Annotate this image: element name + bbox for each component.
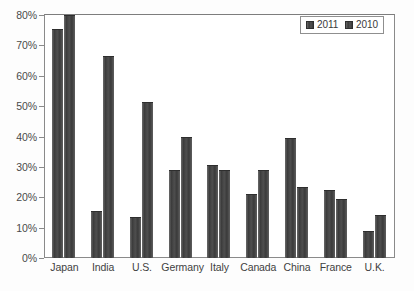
bar-group bbox=[316, 15, 355, 258]
bar-group bbox=[45, 15, 84, 258]
bar-group bbox=[161, 15, 200, 258]
y-axis-tick-label: 60% bbox=[16, 70, 37, 82]
y-axis-tick-mark bbox=[39, 197, 44, 198]
x-axis-tick-label: Canada bbox=[239, 261, 278, 273]
bar bbox=[246, 194, 257, 258]
legend-label: 2011 bbox=[317, 19, 338, 30]
bar bbox=[103, 56, 114, 258]
bar bbox=[181, 137, 192, 259]
y-axis-tick-label: 20% bbox=[16, 191, 37, 203]
y-axis-tick-label: 0% bbox=[22, 252, 37, 264]
x-axis-tick-label: France bbox=[316, 261, 355, 273]
bar bbox=[258, 170, 269, 258]
bar-group bbox=[355, 15, 394, 258]
y-axis-tick-mark bbox=[39, 167, 44, 168]
x-axis-tick-label: Germany bbox=[161, 261, 200, 273]
y-axis-tick-label: 50% bbox=[16, 100, 37, 112]
bar bbox=[297, 187, 308, 258]
bar-group bbox=[84, 15, 123, 258]
legend: 20112010 bbox=[300, 16, 384, 34]
y-axis-tick-label: 70% bbox=[16, 39, 37, 51]
legend-entry: 2010 bbox=[345, 19, 378, 30]
x-axis-tick-label: U.K. bbox=[355, 261, 394, 273]
legend-label: 2010 bbox=[356, 19, 378, 30]
bar bbox=[375, 215, 386, 258]
bar-group bbox=[278, 15, 317, 258]
bar bbox=[64, 15, 75, 258]
y-axis: 80%70%60%50%40%30%20%10%0% bbox=[0, 0, 44, 258]
x-axis-tick-label: China bbox=[278, 261, 317, 273]
bar bbox=[91, 211, 102, 258]
y-axis-tick-label: 80% bbox=[16, 9, 37, 21]
bar bbox=[324, 190, 335, 258]
x-axis-tick-label: U.S. bbox=[123, 261, 162, 273]
y-axis-tick-mark bbox=[39, 45, 44, 46]
bar-group bbox=[200, 15, 239, 258]
x-axis: JapanIndiaU.S.GermanyItalyCanadaChinaFra… bbox=[45, 261, 394, 277]
bar-chart: 80%70%60%50%40%30%20%10%0% JapanIndiaU.S… bbox=[0, 0, 414, 291]
y-axis-tick-mark bbox=[39, 106, 44, 107]
y-axis-tick-mark bbox=[39, 76, 44, 77]
x-axis-tick-label: Italy bbox=[200, 261, 239, 273]
legend-entry: 2011 bbox=[306, 19, 338, 30]
y-axis-tick-mark bbox=[39, 228, 44, 229]
bar-group bbox=[123, 15, 162, 258]
bar bbox=[142, 102, 153, 258]
bar-group bbox=[239, 15, 278, 258]
y-axis-tick-label: 10% bbox=[16, 222, 37, 234]
legend-swatch-2010 bbox=[345, 21, 353, 29]
bar bbox=[207, 165, 218, 258]
bar bbox=[169, 170, 180, 258]
y-axis-tick-mark bbox=[39, 258, 44, 259]
y-axis-tick-mark bbox=[39, 15, 44, 16]
y-axis-tick-mark bbox=[39, 137, 44, 138]
y-axis-tick-label: 30% bbox=[16, 161, 37, 173]
x-axis-tick-label: Japan bbox=[45, 261, 84, 273]
bar bbox=[363, 231, 374, 258]
bar bbox=[219, 170, 230, 258]
bar bbox=[336, 199, 347, 258]
bar bbox=[285, 138, 296, 258]
legend-swatch-2011 bbox=[306, 21, 314, 29]
bars-layer bbox=[45, 15, 394, 258]
y-axis-tick-label: 40% bbox=[16, 131, 37, 143]
bar bbox=[52, 29, 63, 258]
bar bbox=[130, 217, 141, 258]
x-axis-tick-label: India bbox=[84, 261, 123, 273]
